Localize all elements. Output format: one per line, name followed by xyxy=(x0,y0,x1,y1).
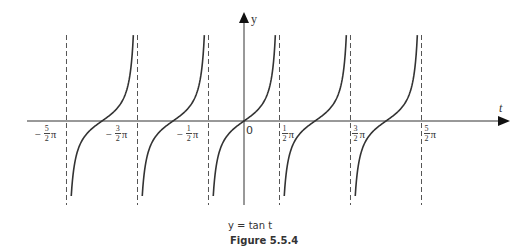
origin-label: 0 xyxy=(246,125,253,136)
tan-branch xyxy=(142,35,204,196)
tick-fraction: 12 xyxy=(186,124,192,143)
figure-caption: Figure 5.5.4 xyxy=(230,235,298,246)
tan-branch xyxy=(355,35,417,196)
tick-sign: − xyxy=(34,128,40,140)
tick-fraction: 32 xyxy=(115,124,121,143)
t-axis-label: t xyxy=(499,102,502,114)
pi-symbol: π xyxy=(289,128,295,140)
tan-plot xyxy=(0,0,519,250)
tan-branch xyxy=(284,35,346,196)
x-tick-label: 12π xyxy=(281,124,295,143)
pi-symbol: π xyxy=(193,128,199,140)
tick-sign: − xyxy=(106,128,112,140)
y-axis-label: y xyxy=(251,13,257,25)
y-axis-arrow-icon xyxy=(239,12,249,23)
tick-fraction: 52 xyxy=(44,124,50,143)
tick-sign: − xyxy=(176,128,182,140)
pi-symbol: π xyxy=(359,128,365,140)
t-axis-arrow-icon xyxy=(498,116,510,126)
tick-fraction: 12 xyxy=(282,124,288,143)
x-tick-label: − 12π xyxy=(176,124,198,143)
x-tick-label: − 52π xyxy=(34,124,56,143)
x-tick-label: 52π xyxy=(423,124,437,143)
x-tick-label: 32π xyxy=(351,124,365,143)
x-tick-label: − 32π xyxy=(106,124,128,143)
tan-branch xyxy=(71,35,133,196)
function-label: y = tan t xyxy=(228,220,272,231)
pi-symbol: π xyxy=(431,128,437,140)
pi-symbol: π xyxy=(122,128,128,140)
tick-fraction: 32 xyxy=(352,124,358,143)
pi-symbol: π xyxy=(51,128,57,140)
tick-fraction: 52 xyxy=(424,124,430,143)
